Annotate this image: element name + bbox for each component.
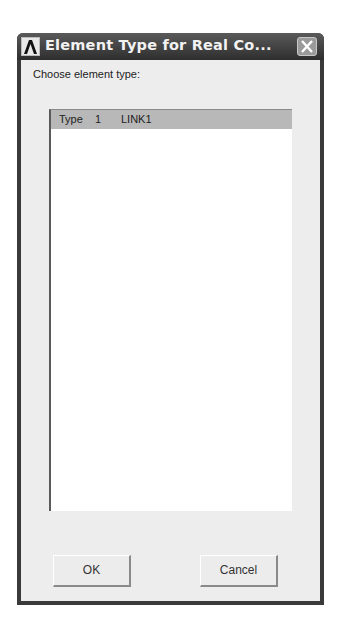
close-icon xyxy=(298,38,316,55)
ansys-logo-icon xyxy=(21,37,40,56)
element-type-list[interactable]: Type 1 LINK1 xyxy=(49,109,292,511)
item-name: LINK1 xyxy=(121,113,152,125)
list-item[interactable]: Type 1 LINK1 xyxy=(51,110,292,129)
item-label: Type xyxy=(59,113,83,125)
close-button[interactable] xyxy=(297,37,317,56)
title-bar[interactable]: Element Type for Real Co... xyxy=(17,33,324,60)
cancel-button[interactable]: Cancel xyxy=(200,555,278,587)
ok-button[interactable]: OK xyxy=(53,555,131,587)
dialog-body: Choose element type: Type 1 LINK1 OK Can… xyxy=(21,60,320,601)
prompt-label: Choose element type: xyxy=(33,68,140,80)
item-number: 1 xyxy=(95,113,101,125)
window-title: Element Type for Real Co... xyxy=(45,37,272,53)
element-type-dialog: Element Type for Real Co... Choose eleme… xyxy=(17,33,324,605)
